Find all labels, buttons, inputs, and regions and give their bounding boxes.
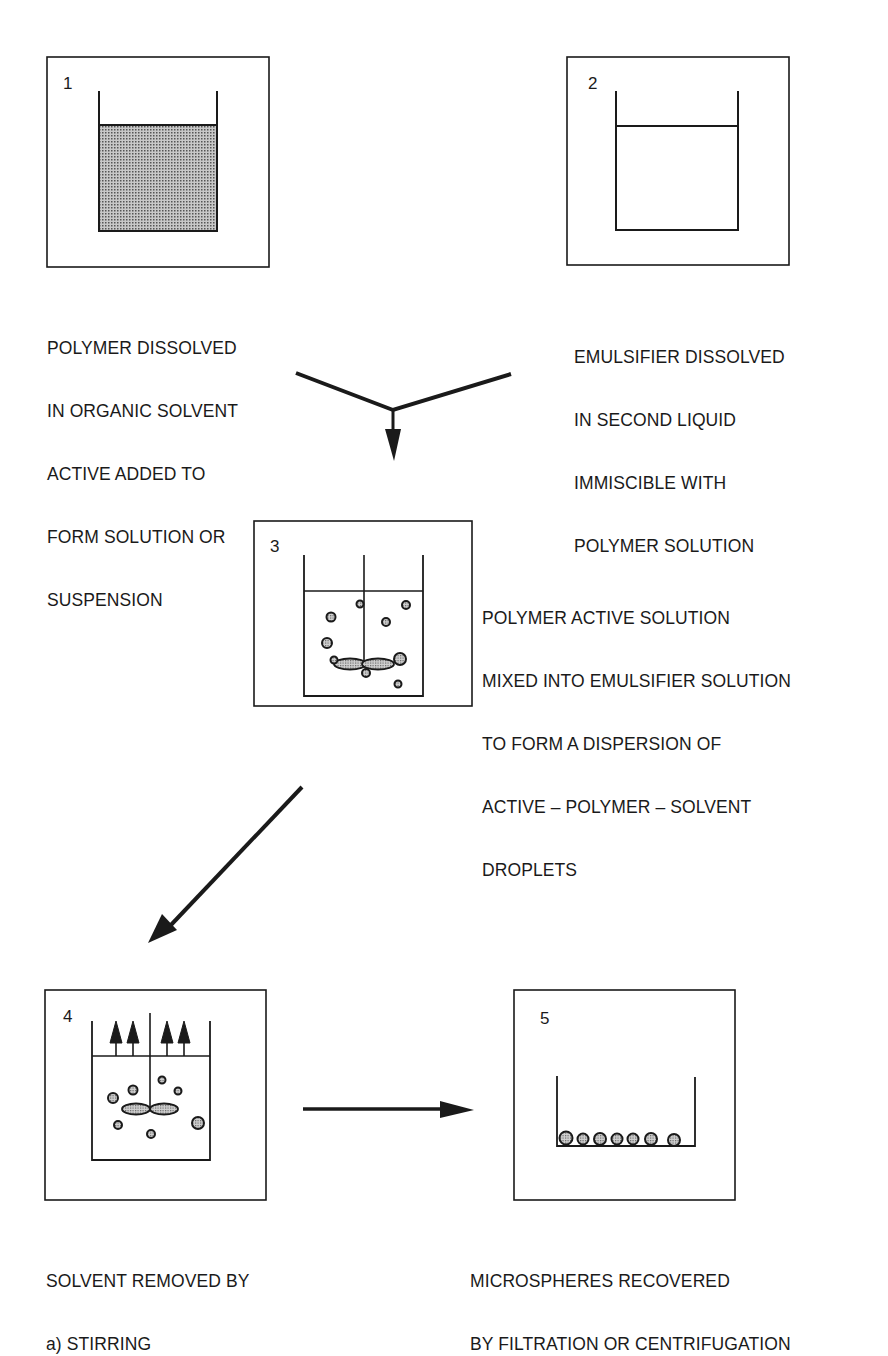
caption-line: IMMISCIBLE WITH xyxy=(574,473,785,494)
caption-line: MICROSPHERES RECOVERED xyxy=(470,1271,791,1292)
step-3-frame xyxy=(254,521,472,706)
caption-line: IN ORGANIC SOLVENT xyxy=(47,401,238,422)
step-5-number: 5 xyxy=(540,1009,549,1029)
step-1-panel xyxy=(47,57,269,267)
beaker-icon xyxy=(616,91,738,230)
step-4-frame xyxy=(45,990,266,1200)
merge-arrow-icon xyxy=(296,373,511,461)
step-1-caption: POLYMER DISSOLVED IN ORGANIC SOLVENT ACT… xyxy=(47,296,238,632)
caption-line: FORM SOLUTION OR xyxy=(47,527,238,548)
step-3-panel xyxy=(254,521,472,706)
caption-line: a) STIRRING xyxy=(46,1334,249,1355)
caption-line: SUSPENSION xyxy=(47,590,238,611)
step-2-caption: EMULSIFIER DISSOLVED IN SECOND LIQUID IM… xyxy=(574,305,785,578)
step-4-panel xyxy=(45,990,266,1200)
caption-line: POLYMER DISSOLVED xyxy=(47,338,238,359)
step-5-caption: MICROSPHERES RECOVERED BY FILTRATION OR … xyxy=(470,1229,791,1356)
diagonal-arrow-icon xyxy=(148,787,302,943)
caption-line: DROPLETS xyxy=(482,860,791,881)
step-2-frame xyxy=(567,57,789,265)
caption-line: EMULSIFIER DISSOLVED xyxy=(574,347,785,368)
droplet-icons xyxy=(322,601,410,688)
step-1-number: 1 xyxy=(63,74,72,94)
horizontal-arrow-icon xyxy=(303,1101,474,1118)
caption-line: POLYMER SOLUTION xyxy=(574,536,785,557)
microsphere-icons xyxy=(560,1132,681,1147)
caption-line: MIXED INTO EMULSIFIER SOLUTION xyxy=(482,671,791,692)
step-2-panel xyxy=(567,57,789,265)
caption-line: POLYMER ACTIVE SOLUTION xyxy=(482,608,791,629)
step-3-number: 3 xyxy=(270,537,279,557)
step-4-number: 4 xyxy=(63,1007,72,1027)
caption-line: TO FORM A DISPERSION OF xyxy=(482,734,791,755)
caption-line: BY FILTRATION OR CENTRIFUGATION xyxy=(470,1334,791,1355)
caption-line: ACTIVE – POLYMER – SOLVENT xyxy=(482,797,791,818)
step-4-caption: SOLVENT REMOVED BY a) STIRRING b) HEATIN… xyxy=(46,1229,249,1356)
caption-line: ACTIVE ADDED TO xyxy=(47,464,238,485)
step-2-number: 2 xyxy=(588,74,597,94)
step-3-caption: POLYMER ACTIVE SOLUTION MIXED INTO EMULS… xyxy=(482,566,791,902)
caption-line: IN SECOND LIQUID xyxy=(574,410,785,431)
caption-line: SOLVENT REMOVED BY xyxy=(46,1271,249,1292)
beaker-icon xyxy=(99,91,217,231)
